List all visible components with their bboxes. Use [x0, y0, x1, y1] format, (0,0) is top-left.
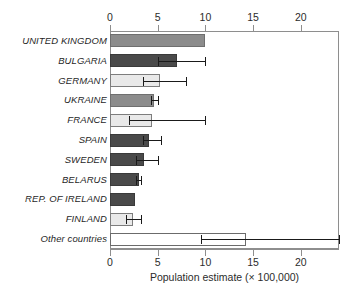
category-axis-labels: UNITED KINGDOMBULGARIAGERMANYUKRAINEFRAN… — [0, 0, 107, 288]
bottom-axis-line — [110, 249, 339, 250]
bar-belarus — [110, 173, 139, 186]
bar-rep-of-ireland — [110, 193, 135, 206]
error-bar-cap-high-ukraine — [158, 96, 159, 105]
bar-ukraine — [110, 94, 154, 107]
category-label-belarus: BELARUS — [1, 175, 107, 185]
error-bar-other-countries — [201, 239, 339, 240]
bottom-tick-label-0: 0 — [95, 256, 125, 268]
error-bar-cap-high-other-countries — [339, 235, 340, 244]
category-label-other-countries: Other countries — [1, 234, 107, 244]
error-bar-cap-low-belarus — [136, 176, 137, 185]
category-label-rep-of-ireland: REP. OF IRELAND — [1, 194, 107, 204]
error-bar-cap-low-sweden — [136, 156, 137, 165]
bar-chart: 05101520 UNITED KINGDOMBULGARIAGERMANYUK… — [0, 0, 357, 288]
error-bar-cap-high-france — [205, 116, 206, 125]
category-label-united-kingdom: UNITED KINGDOM — [1, 36, 107, 46]
top-tick-label-10: 10 — [190, 11, 220, 23]
bottom-tick-label-15: 15 — [238, 256, 268, 268]
error-bar-cap-high-finland — [141, 215, 142, 224]
error-bar-cap-high-sweden — [158, 156, 159, 165]
category-label-finland: FINLAND — [1, 214, 107, 224]
error-bar-bulgaria — [158, 61, 206, 62]
error-bar-cap-low-spain — [143, 136, 144, 145]
error-bar-cap-high-belarus — [141, 176, 142, 185]
bars-layer — [110, 31, 339, 249]
error-bar-cap-low-france — [129, 116, 130, 125]
bottom-tick-label-5: 5 — [143, 256, 173, 268]
top-tick-label-15: 15 — [238, 11, 268, 23]
bottom-tick-label-20: 20 — [286, 256, 316, 268]
bar-united-kingdom — [110, 34, 205, 47]
error-bar-spain — [143, 140, 160, 141]
category-label-france: FRANCE — [1, 115, 107, 125]
top-tick-label-20: 20 — [286, 11, 316, 23]
error-bar-sweden — [136, 160, 158, 161]
error-bar-cap-low-ukraine — [151, 96, 152, 105]
category-label-spain: SPAIN — [1, 135, 107, 145]
bottom-tick-label-10: 10 — [190, 256, 220, 268]
error-bar-cap-low-finland — [126, 215, 127, 224]
x-axis-title: Population estimate (× 100,000) — [110, 271, 339, 283]
error-bar-cap-low-other-countries — [201, 235, 202, 244]
error-bar-cap-low-bulgaria — [158, 57, 159, 66]
error-bar-cap-high-bulgaria — [205, 57, 206, 66]
error-bar-cap-high-spain — [161, 136, 162, 145]
category-label-bulgaria: BULGARIA — [1, 56, 107, 66]
error-bar-france — [129, 120, 205, 121]
error-bar-cap-high-germany — [186, 77, 187, 86]
error-bar-germany — [143, 81, 186, 82]
category-label-ukraine: UKRAINE — [1, 95, 107, 105]
error-bar-finland — [126, 219, 140, 220]
category-label-germany: GERMANY — [1, 76, 107, 86]
top-tick-label-5: 5 — [143, 11, 173, 23]
error-bar-cap-low-germany — [143, 77, 144, 86]
category-label-sweden: SWEDEN — [1, 155, 107, 165]
error-bar-ukraine — [151, 100, 158, 101]
